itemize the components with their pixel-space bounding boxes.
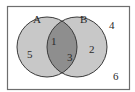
region-outside-bottom-value: 6 [113, 70, 119, 82]
set-a-label: A [33, 13, 41, 25]
region-only-a-value: 5 [27, 48, 33, 60]
region-outside-top-value: 4 [109, 19, 115, 31]
venn-diagram: A B 5 1 3 2 4 6 [0, 0, 135, 92]
set-b-label: B [80, 13, 87, 25]
region-intersection-lower-value: 3 [67, 51, 73, 63]
region-only-b-value: 2 [89, 43, 95, 55]
region-intersection-upper-value: 1 [51, 35, 57, 47]
